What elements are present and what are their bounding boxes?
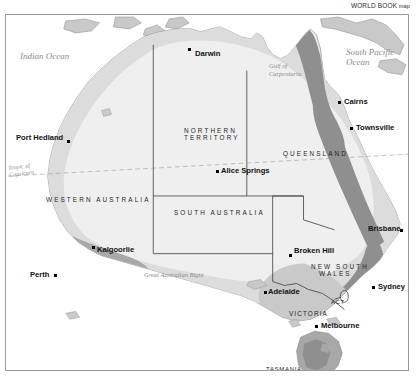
city-dot-brisbane	[400, 229, 403, 232]
city-dot-melbourne	[315, 325, 318, 328]
city-dot-alice-springs	[216, 170, 219, 173]
publisher-credit: WORLD BOOK map	[351, 2, 410, 9]
publisher-credit-suffix: map	[397, 3, 410, 9]
city-dot-broken-hill	[289, 254, 292, 257]
city-dot-townsville	[350, 127, 353, 130]
city-dot-darwin	[188, 48, 191, 51]
city-dot-sydney	[372, 286, 375, 289]
map-graphic	[6, 15, 408, 370]
city-dot-perth	[54, 274, 57, 277]
city-dot-cairns	[338, 101, 341, 104]
city-dot-port-hedland	[67, 140, 70, 143]
map-frame: Indian Ocean South Pacific Ocean Gulf of…	[5, 14, 409, 371]
publisher-credit-main: WORLD BOOK	[351, 2, 397, 9]
city-dot-adelaide	[264, 291, 267, 294]
city-dot-kalgoorlie	[92, 246, 95, 249]
australia-map-page: WORLD BOOK map	[0, 0, 416, 379]
